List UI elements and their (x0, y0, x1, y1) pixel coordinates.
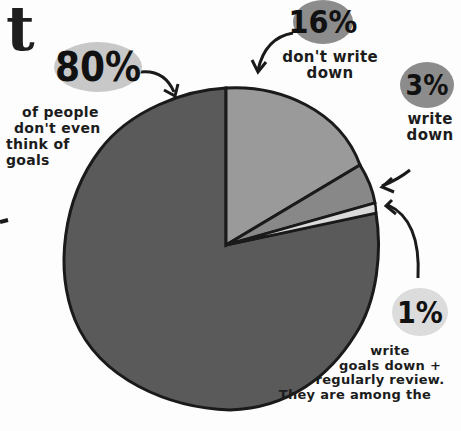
caption-80: of people don't even think of goals (6, 104, 106, 168)
bubble-3: 3% (400, 62, 454, 108)
pct-1: 1% (397, 295, 443, 330)
pct-80: 80% (55, 44, 141, 90)
bubble-16: 16% (293, 0, 353, 44)
bubble-80: 80% (54, 42, 142, 92)
pct-16: 16% (289, 3, 358, 41)
caption-16: don't write down (280, 50, 380, 82)
arrow-1 (388, 205, 418, 278)
caption-3: write down (400, 112, 460, 144)
caption-1: write goals down + regularly review. The… (250, 344, 460, 402)
bubble-1: 1% (392, 288, 448, 336)
arrow-80 (140, 72, 174, 92)
pct-3: 3% (406, 69, 449, 102)
